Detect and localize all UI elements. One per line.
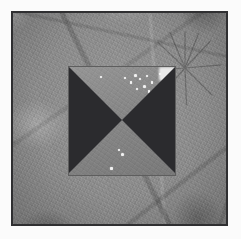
image-frame (11, 11, 228, 226)
bowtie-overlay (68, 66, 176, 174)
bowtie-left-triangle (68, 66, 122, 174)
bowtie-right-triangle (122, 66, 176, 174)
image-frame-inner (13, 13, 226, 224)
screenshot-root (0, 0, 241, 239)
region-of-interest-square (68, 66, 176, 176)
